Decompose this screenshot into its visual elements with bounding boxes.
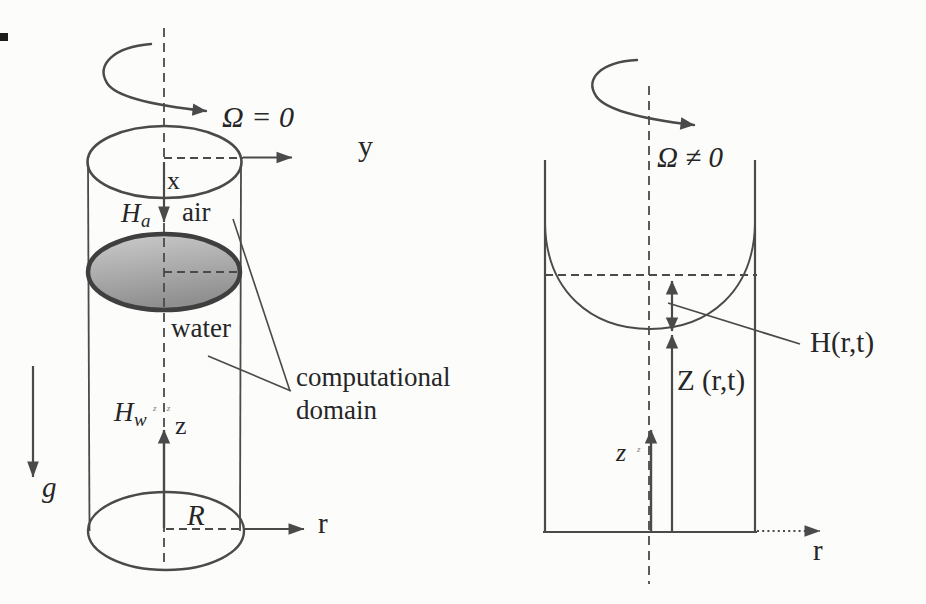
radius-label: R [186,499,205,531]
rotating-tank-diagram: Ω ≠ 0 H(r,t) Z (r,t) z z r [543,60,874,584]
figure-canvas: Ω = 0 y x Ha air water computational dom… [0,0,926,604]
schematic-diagram: Ω = 0 y x Ha air water computational dom… [0,0,926,604]
water-height-tick-marks: z z [152,403,174,413]
gravity-label: g [42,471,57,503]
cylinder-wall-left [88,163,90,531]
cylinder-bottom-ellipse [88,492,244,570]
air-height-label: Ha [120,198,151,231]
water-height-label: Hw [113,397,147,430]
static-cylinder-diagram: Ω = 0 y x Ha air water computational dom… [33,28,450,570]
x-axis-label: x [167,166,180,195]
computational-domain-label-line2: domain [296,395,377,425]
interface-position-label: Z (r,t) [677,364,745,397]
r-axis-label-right: r [813,534,823,566]
omega-nonzero-label: Ω ≠ 0 [657,141,723,173]
r-axis-label: r [318,507,328,539]
rotation-arrow-icon [104,44,206,111]
scan-artifact [0,33,8,41]
cylinder-wall-right [240,163,241,531]
water-label: water [171,313,231,343]
leader-line-upper [233,219,290,391]
leader-line-lower [208,356,291,391]
z-axis-label-right: z [615,438,626,467]
computational-domain-label-line1: computational [296,362,450,392]
y-axis-label: y [358,129,373,162]
free-surface-curve [545,223,755,329]
surface-height-label: H(r,t) [810,326,874,359]
z-axis-tick-mark: z [636,444,645,454]
z-axis-label: z [175,411,187,440]
omega-zero-label: Ω = 0 [222,100,294,133]
air-label: air [182,197,210,227]
rotation-arrow-icon-right [592,60,694,125]
